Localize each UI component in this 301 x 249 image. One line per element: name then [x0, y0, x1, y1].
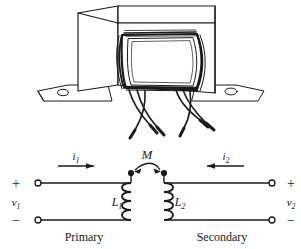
mutual-inductance-label: M [141, 147, 154, 162]
polarity-plus-primary: + [12, 176, 20, 191]
figure-canvas: M i1 i2 + − v1 + − v2 L1 L2 Primary Seco… [0, 0, 301, 249]
housing-top-face [118, 6, 215, 23]
polarity-plus-secondary: + [287, 176, 295, 191]
polarity-minus-secondary: − [287, 213, 295, 228]
terminal-secondary-top [269, 180, 275, 186]
bracket-hole-left [58, 89, 69, 95]
housing-left-face [78, 6, 118, 91]
bracket-hole-right [225, 88, 237, 95]
terminal-secondary-bottom [269, 217, 275, 223]
section-label-secondary: Secondary [197, 230, 248, 244]
polarity-minus-primary: − [12, 213, 20, 228]
mutual-inductance-figure: M i1 i2 + − v1 + − v2 L1 L2 Primary Seco… [0, 0, 301, 249]
terminal-primary-bottom [35, 217, 41, 223]
terminal-primary-top [35, 180, 41, 186]
laminated-core-window [117, 30, 206, 91]
section-label-primary: Primary [65, 230, 104, 244]
